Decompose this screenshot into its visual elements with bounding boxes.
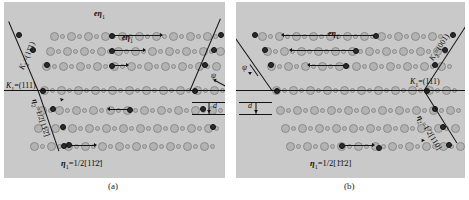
atom-large (97, 47, 106, 56)
lattice-node-12 (210, 124, 216, 130)
atom-large (149, 142, 158, 151)
atom-small (296, 144, 301, 149)
atom-small (286, 108, 291, 113)
atom-small (158, 49, 163, 54)
atom-large (102, 124, 111, 133)
atom-small (142, 144, 147, 149)
atom-small (388, 108, 393, 113)
atom-large (412, 106, 421, 115)
atom-small (396, 64, 401, 69)
shear-arrow-3-head (372, 143, 375, 147)
atom-large (366, 124, 375, 133)
atom-large (400, 124, 409, 133)
atom-large (405, 142, 414, 151)
panel-b: eη1 K2=(001) K1=(111) η2=1/2[110] η1=1/2… (236, 2, 465, 178)
panel-a-top-label: eη1 (94, 10, 105, 20)
panel-b-d-label: d (248, 102, 252, 110)
atom-large (284, 62, 293, 71)
panel-b-d-arrowhead (254, 110, 258, 113)
atom-small (179, 34, 184, 39)
atom-large (72, 106, 81, 115)
atom-small (176, 144, 181, 149)
atom-large (298, 124, 307, 133)
atom-large (183, 142, 192, 151)
shear-arrow-0-shaft (110, 35, 162, 36)
atom-small (405, 108, 410, 113)
lattice-node-7 (218, 32, 224, 38)
lattice-node-10 (66, 142, 72, 148)
atom-small (354, 108, 359, 113)
atom-small (409, 49, 414, 54)
lattice-node-2 (268, 62, 274, 68)
atom-large (318, 62, 327, 71)
atom-large (395, 106, 404, 115)
atom-large (388, 142, 397, 151)
shear-arrow-3-head (107, 107, 110, 111)
atom-large (344, 106, 353, 115)
atom-large (383, 124, 392, 133)
atom-large (354, 142, 363, 151)
lattice-node-2 (44, 62, 50, 68)
panel-a-psi-label: ψ (211, 72, 216, 80)
atom-small (362, 64, 367, 69)
atom-small (137, 64, 142, 69)
shear-arrow-3-shaft (340, 145, 374, 146)
shear-arrow-2-shaft (310, 65, 344, 66)
atom-small (376, 126, 381, 131)
atom-small (188, 64, 193, 69)
atom-small (175, 49, 180, 54)
atom-small (218, 108, 223, 113)
atom-large (428, 32, 437, 41)
atom-large (297, 47, 306, 56)
shear-node-0 (109, 33, 115, 39)
atom-large (166, 142, 175, 151)
atom-small (404, 34, 409, 39)
atom-large (186, 32, 195, 41)
atom-small (192, 49, 197, 54)
atom-small (393, 126, 398, 131)
atom-large (131, 47, 140, 56)
atom-large (360, 32, 369, 41)
atom-large (309, 32, 318, 41)
atom-large (67, 32, 76, 41)
atom-large (352, 62, 361, 71)
atom-large (361, 106, 370, 115)
atom-large (212, 62, 221, 71)
atom-small (392, 49, 397, 54)
shear-node-3 (339, 143, 345, 149)
atom-large (292, 32, 301, 41)
atom-large (55, 106, 64, 115)
atom-small (150, 108, 155, 113)
atom-large (157, 106, 166, 115)
atom-large (332, 124, 341, 133)
atom-large (378, 106, 387, 115)
atom-large (81, 142, 90, 151)
atom-large (63, 47, 72, 56)
atom-small (415, 144, 420, 149)
atom-large (135, 32, 144, 41)
lattice-node-0 (252, 32, 258, 38)
panel-a: eη1 eη1 K2=(11̄1) K1=(111) η2=1/2[112̄] … (4, 2, 225, 178)
shear-arrow-4-head (94, 143, 97, 147)
atom-large (320, 142, 329, 151)
atom-large (314, 47, 323, 56)
atom-large (456, 142, 465, 151)
atom-large (144, 62, 153, 71)
atom-small (456, 108, 461, 113)
atom-large (386, 62, 395, 71)
atom-small (112, 126, 117, 131)
atom-small (320, 108, 325, 113)
atom-large (89, 106, 98, 115)
panel-b-k1-label: K1=(111) (410, 78, 440, 88)
atom-large (293, 106, 302, 115)
atom-small (60, 34, 65, 39)
atom-small (210, 144, 215, 149)
atom-large (327, 106, 336, 115)
panel-a-k1-label: K1=(111) (6, 82, 36, 92)
atom-large (200, 142, 209, 151)
atom-small (359, 126, 364, 131)
atom-small (387, 34, 392, 39)
atom-large (416, 47, 425, 56)
atom-small (146, 126, 151, 131)
shear-arrow-1-shaft (292, 50, 354, 51)
